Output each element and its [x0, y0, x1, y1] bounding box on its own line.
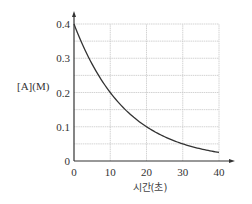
y-tick-label: 0.4 [56, 18, 70, 30]
x-tick-label: 10 [105, 166, 117, 178]
x-axis-arrow-icon [229, 159, 235, 163]
x-tick-label: 40 [214, 166, 226, 178]
y-tick-labels: 00.10.20.30.4 [56, 18, 70, 167]
axes [72, 11, 235, 163]
y-axis-arrow-icon [72, 11, 76, 17]
x-tick-labels: 010203040 [71, 166, 225, 178]
x-tick-label: 20 [141, 166, 153, 178]
y-tick-label: 0.3 [56, 52, 70, 64]
decay-chart: 00.10.20.30.4 010203040 [A](M) 시간(초) [0, 0, 252, 204]
y-axis-label: [A](M) [17, 80, 50, 93]
y-tick-label: 0.1 [56, 121, 70, 133]
gridlines [74, 24, 219, 161]
x-tick-label: 0 [71, 166, 77, 178]
y-tick-label: 0.2 [56, 87, 70, 99]
x-axis-label: 시간(초) [133, 182, 168, 193]
x-tick-label: 30 [177, 166, 189, 178]
y-tick-label: 0 [65, 155, 71, 167]
